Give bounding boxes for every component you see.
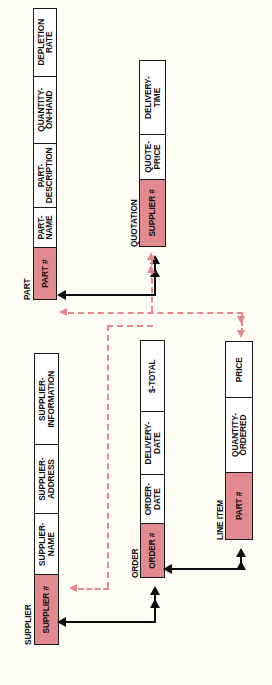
field-part-part-name[interactable]: PART- NAME (34, 207, 56, 248)
arrowhead-quotation-to-part (57, 290, 66, 300)
arrowhead-order-to-supplier (57, 617, 66, 627)
field-supplier-supplier-name[interactable]: SUPPLIER- NAME (35, 513, 58, 575)
field-order-delivery-date[interactable]: DELIVERY- DATE (141, 411, 164, 473)
link-lineitem-order-horizontal (172, 568, 242, 570)
field-supplier-supplier-information[interactable]: SUPPLIER- INFORMATION (35, 354, 58, 444)
field-part-part-description[interactable]: PART- DESCRIPTION (34, 143, 56, 207)
diagram-canvas: PART PART # PART- NAME PART- DESCRIPTION… (0, 0, 272, 685)
link-order-supplier-horizontal (66, 621, 156, 623)
arrowhead-lineitem-solid-lower (236, 561, 246, 570)
entity-label-supplier: SUPPLIER (23, 604, 33, 645)
arrowhead-quotation-dashed-upper (147, 252, 155, 260)
field-supplier-supplier-address[interactable]: SUPPLIER- ADDRESS (35, 444, 58, 513)
field-part-part-number[interactable]: PART # (34, 247, 56, 299)
entity-line-item[interactable]: PART # QUANTITY- ORDERED PRICE (225, 341, 253, 540)
field-quotation-delivery-time[interactable]: DELIVERY- TIME (140, 61, 165, 134)
field-quotation-quote-price[interactable]: QUOTE- PRICE (140, 134, 165, 179)
link-part-lineitem-horizontal (68, 312, 243, 314)
arrowhead-lineitem-lower (237, 330, 245, 338)
entity-label-line-item: LINE ITEM (215, 500, 225, 540)
field-order-order-date[interactable]: ORDER- DATE (141, 474, 164, 524)
arrowhead-supplier-dashed (69, 584, 77, 592)
field-order-dollar-total[interactable]: $-TOTAL (141, 341, 164, 411)
arrowhead-order-solid-lower (150, 599, 160, 608)
field-line-item-quantity-ordered[interactable]: QUANTITY- ORDERED (226, 397, 252, 471)
entity-label-order: ORDER (130, 549, 140, 578)
field-line-item-price[interactable]: PRICE (226, 342, 252, 397)
link-supplier-quotation-lower-vertical (107, 325, 109, 588)
entity-label-quotation: QUOTATION (129, 199, 139, 247)
entity-part[interactable]: PART # PART- NAME PART- DESCRIPTION QUAN… (33, 8, 57, 300)
arrowhead-order-solid-upper (150, 586, 160, 595)
field-supplier-supplier-number[interactable]: SUPPLIER # (35, 574, 58, 644)
link-supplier-quotation-mid-horizontal (107, 325, 153, 327)
arrowhead-part-to-lineitem-left (59, 308, 67, 316)
entity-label-part: PART (22, 278, 32, 300)
entity-quotation[interactable]: SUPPLIER # QUOTE- PRICE DELIVERY- TIME (139, 60, 166, 247)
field-line-item-part-number[interactable]: PART # (226, 472, 252, 539)
link-quotation-part-horizontal (66, 294, 156, 296)
field-quotation-supplier-number[interactable]: SUPPLIER # (140, 179, 165, 246)
link-supplier-quotation-bottom-horizontal (78, 588, 109, 590)
field-part-depletion-rate[interactable]: DEPLETION RATE (34, 9, 56, 76)
field-order-order-number[interactable]: ORDER # (141, 523, 164, 577)
arrowhead-quotation-dashed-lower (147, 265, 155, 273)
arrowhead-lineitem-solid-upper (236, 548, 246, 557)
field-part-quantity-on-hand[interactable]: QUANTITY- ON-HAND (34, 76, 56, 144)
arrowhead-lineitem-upper (237, 316, 245, 324)
arrowhead-lineitem-to-order (163, 564, 172, 574)
entity-order[interactable]: ORDER # ORDER- DATE DELIVERY- DATE $-TOT… (140, 340, 165, 578)
entity-supplier[interactable]: SUPPLIER # SUPPLIER- NAME SUPPLIER- ADDR… (34, 353, 59, 645)
